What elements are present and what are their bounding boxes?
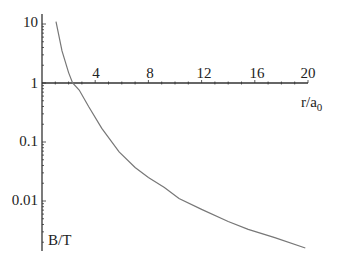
- x-tick-label-16: 16: [250, 65, 266, 81]
- x-tick-label-8: 8: [146, 65, 154, 81]
- x-axis-label-subscript: 0: [317, 101, 323, 113]
- x-tick-label-4: 4: [92, 65, 100, 81]
- y-tick-label-0.1: 0.1: [19, 133, 38, 149]
- x-tick-label-20: 20: [301, 65, 316, 81]
- data-curve: [56, 22, 305, 248]
- x-axis-label: r/a0: [301, 94, 323, 113]
- y-axis-label: B/T: [48, 232, 71, 248]
- y-tick-label-10: 10: [23, 14, 38, 30]
- chart-canvas: 10 1 0.1 0.01 4 8 12 16 20 r/a0 B/T: [0, 0, 337, 264]
- y-tick-label-1: 1: [31, 75, 39, 91]
- x-tick-label-12: 12: [197, 65, 212, 81]
- y-tick-label-0.01: 0.01: [12, 192, 38, 208]
- x-axis-label-main: r/a: [301, 94, 317, 110]
